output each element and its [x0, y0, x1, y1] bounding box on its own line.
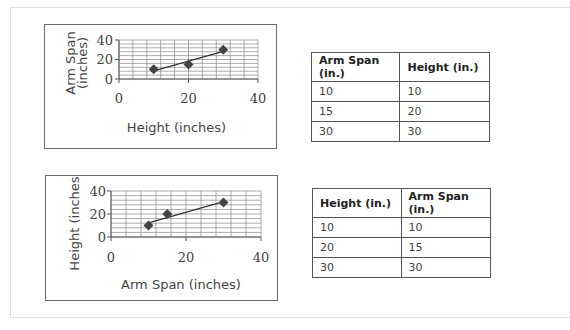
x-tick-label: 0 — [115, 91, 123, 106]
table-cell: 20 — [313, 238, 402, 258]
y-tick-label: 40 — [89, 184, 106, 199]
y-tick-label: 20 — [96, 52, 113, 67]
table-header-cell: Arm Span (in.) — [312, 53, 400, 82]
x-tick-label: 0 — [107, 250, 115, 265]
table-cell: 10 — [312, 82, 400, 102]
data-point — [184, 59, 194, 69]
table-cell: 30 — [401, 258, 490, 278]
chart-svg: 0204002040Arm Span (inches)Height (inche… — [46, 176, 279, 302]
x-axis-label: Height (inches) — [127, 120, 226, 135]
chart-arm-span-vs-height: 0204002040Height (inches)Arm Span(inches… — [44, 24, 277, 149]
table-cell: 15 — [401, 238, 490, 258]
table-row: 10 10 — [313, 218, 491, 238]
table-cell: 30 — [400, 122, 490, 142]
chart-height-vs-arm-span: 0204002040Arm Span (inches)Height (inche… — [45, 175, 278, 301]
x-tick-label: 40 — [250, 91, 267, 106]
table-row: 20 15 — [313, 238, 491, 258]
table-height-arm-span: Height (in.) Arm Span (in.) 10 10 20 15 … — [312, 188, 491, 278]
table-header-row: Height (in.) Arm Span (in.) — [313, 189, 491, 218]
table-cell: 10 — [401, 218, 490, 238]
y-tick-label: 0 — [105, 72, 113, 87]
table-row: 15 20 — [312, 102, 490, 122]
data-point — [219, 198, 229, 208]
x-axis-label: Arm Span (inches) — [121, 277, 241, 292]
x-tick-label: 20 — [180, 91, 197, 106]
table-row: 30 30 — [312, 122, 490, 142]
y-axis-label: (inches) — [75, 37, 90, 89]
data-point — [149, 64, 159, 74]
chart-svg: 0204002040Height (inches)Arm Span(inches… — [45, 25, 278, 150]
table-header-row: Arm Span (in.) Height (in.) — [312, 53, 490, 82]
table-header-cell: Arm Span (in.) — [401, 189, 490, 218]
y-axis-label: Height (inches) — [67, 176, 82, 271]
table-arm-span-height: Arm Span (in.) Height (in.) 10 10 15 20 … — [311, 52, 490, 142]
table-cell: 20 — [400, 102, 490, 122]
table-header-cell: Height (in.) — [400, 53, 490, 82]
table-cell: 15 — [312, 102, 400, 122]
data-point — [218, 45, 228, 55]
table-row: 30 30 — [313, 258, 491, 278]
y-tick-label: 20 — [89, 207, 106, 222]
table-cell: 30 — [313, 258, 402, 278]
table-row: 10 10 — [312, 82, 490, 102]
table-cell: 30 — [312, 122, 400, 142]
x-tick-label: 20 — [178, 250, 195, 265]
y-tick-label: 40 — [96, 33, 113, 48]
table-header-cell: Height (in.) — [313, 189, 402, 218]
table-cell: 10 — [400, 82, 490, 102]
y-tick-label: 0 — [98, 230, 106, 245]
x-tick-label: 40 — [253, 250, 270, 265]
table-cell: 10 — [313, 218, 402, 238]
